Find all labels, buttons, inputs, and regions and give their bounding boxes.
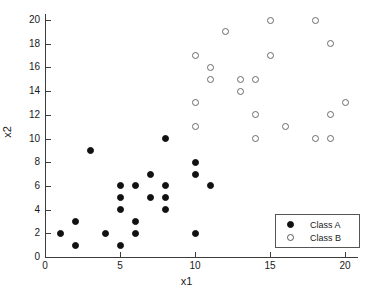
data-point-class-a — [117, 206, 124, 213]
data-point-class-a — [192, 159, 199, 166]
x-tick-label: 5 — [107, 260, 133, 271]
data-point-class-b — [222, 28, 229, 35]
data-point-class-b — [237, 88, 244, 95]
legend-entry-class-b: Class B — [276, 231, 359, 244]
y-tick-label: 2 — [14, 227, 40, 238]
data-point-class-b — [207, 76, 214, 83]
data-point-class-a — [192, 230, 199, 237]
data-point-class-b — [327, 111, 334, 118]
data-point-class-a — [162, 182, 169, 189]
data-point-class-a — [132, 182, 139, 189]
y-tick-label: 4 — [14, 204, 40, 215]
data-point-class-a — [207, 182, 214, 189]
filled-circle-icon — [280, 221, 300, 228]
data-point-class-a — [147, 171, 154, 178]
x-tick-label: 20 — [332, 260, 358, 271]
legend-entry-class-a: Class A — [276, 218, 359, 231]
data-point-class-b — [327, 40, 334, 47]
data-point-class-a — [57, 230, 64, 237]
data-point-class-b — [282, 123, 289, 130]
data-point-class-b — [237, 76, 244, 83]
y-tick-label: 20 — [14, 14, 40, 25]
data-point-class-b — [252, 135, 259, 142]
legend-label-class-b: Class B — [310, 233, 341, 243]
y-tick-label: 14 — [14, 85, 40, 96]
data-point-class-b — [252, 76, 259, 83]
data-point-class-a — [162, 194, 169, 201]
data-point-class-b — [192, 52, 199, 59]
data-point-class-a — [117, 194, 124, 201]
scatter-plot-figure: 02468101214161820 05101520 x2 x1 Class A… — [0, 0, 373, 300]
data-point-class-a — [117, 182, 124, 189]
legend: Class A Class B — [275, 214, 360, 248]
data-point-class-a — [72, 242, 79, 249]
data-point-class-b — [192, 99, 199, 106]
data-point-class-b — [312, 17, 319, 24]
data-point-class-a — [132, 230, 139, 237]
x-tick-label: 0 — [32, 260, 58, 271]
data-point-class-a — [147, 194, 154, 201]
data-point-class-a — [132, 218, 139, 225]
data-point-class-b — [192, 123, 199, 130]
data-point-class-b — [252, 111, 259, 118]
data-point-class-a — [87, 147, 94, 154]
data-point-class-b — [327, 135, 334, 142]
data-point-class-a — [162, 206, 169, 213]
x-tick-label: 15 — [257, 260, 283, 271]
y-tick-label: 16 — [14, 61, 40, 72]
y-tick-label: 18 — [14, 38, 40, 49]
legend-label-class-a: Class A — [310, 220, 341, 230]
y-tick-label: 12 — [14, 109, 40, 120]
data-point-class-b — [312, 135, 319, 142]
y-tick-label: 8 — [14, 156, 40, 167]
x-axis-label: x1 — [0, 275, 373, 287]
data-point-class-b — [267, 52, 274, 59]
data-point-class-a — [102, 230, 109, 237]
data-point-class-b — [342, 99, 349, 106]
y-tick — [46, 257, 51, 258]
x-axis-line — [45, 257, 358, 258]
y-axis-label: x2 — [1, 112, 13, 152]
data-point-class-b — [267, 17, 274, 24]
data-point-class-a — [117, 242, 124, 249]
y-tick-label: 6 — [14, 180, 40, 191]
open-circle-icon — [280, 234, 300, 241]
data-point-class-a — [192, 171, 199, 178]
data-point-class-a — [72, 218, 79, 225]
data-point-class-b — [207, 64, 214, 71]
y-tick-label: 10 — [14, 133, 40, 144]
data-point-class-a — [162, 135, 169, 142]
x-tick-label: 10 — [182, 260, 208, 271]
